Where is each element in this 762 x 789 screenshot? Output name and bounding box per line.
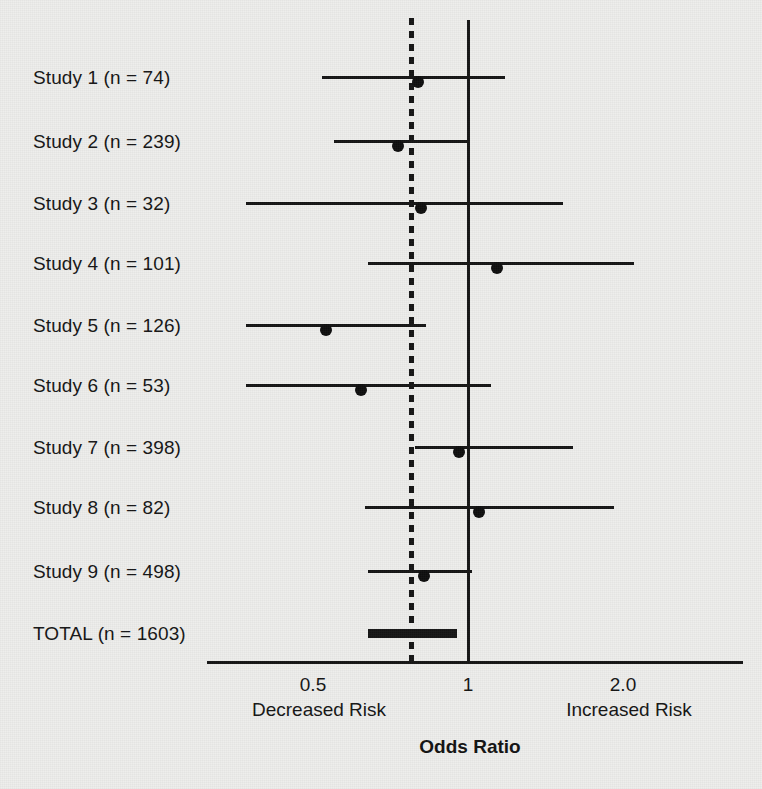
study-row-label: Study 3 (n = 32) bbox=[33, 194, 170, 213]
study-row-label: Study 5 (n = 126) bbox=[33, 316, 181, 335]
study-row-label: Study 1 (n = 74) bbox=[33, 68, 170, 87]
study-row-label: Study 2 (n = 239) bbox=[33, 132, 181, 151]
x-axis-tick-label: 1 bbox=[463, 675, 474, 694]
odds-ratio-point-marker bbox=[453, 446, 465, 458]
odds-ratio-point-marker bbox=[392, 140, 404, 152]
odds-ratio-point-marker bbox=[418, 570, 430, 582]
x-axis-line bbox=[207, 661, 743, 664]
summary-confidence-interval-bar bbox=[368, 629, 456, 638]
confidence-interval-line bbox=[246, 324, 427, 327]
decreased-risk-label: Decreased Risk bbox=[252, 700, 386, 719]
null-effect-reference-line bbox=[467, 20, 470, 661]
study-row-label: Study 8 (n = 82) bbox=[33, 498, 170, 517]
confidence-interval-line bbox=[365, 506, 614, 509]
x-axis-tick-label: 2.0 bbox=[610, 675, 636, 694]
confidence-interval-line bbox=[415, 446, 573, 449]
odds-ratio-point-marker bbox=[355, 384, 367, 396]
odds-ratio-point-marker bbox=[415, 202, 427, 214]
confidence-interval-line bbox=[246, 384, 492, 387]
study-row-label: Study 6 (n = 53) bbox=[33, 376, 170, 395]
odds-ratio-point-marker bbox=[473, 506, 485, 518]
odds-ratio-point-marker bbox=[320, 324, 332, 336]
odds-ratio-point-marker bbox=[491, 262, 503, 274]
increased-risk-label: Increased Risk bbox=[566, 700, 692, 719]
plot-area: Study 1 (n = 74)Study 2 (n = 239)Study 3… bbox=[0, 0, 762, 789]
study-row-label: Study 9 (n = 498) bbox=[33, 562, 181, 581]
study-row-label: Study 4 (n = 101) bbox=[33, 254, 181, 273]
study-row-label: Study 7 (n = 398) bbox=[33, 438, 181, 457]
x-axis-title: Odds Ratio bbox=[419, 737, 520, 756]
odds-ratio-point-marker bbox=[412, 76, 424, 88]
confidence-interval-line bbox=[246, 202, 563, 205]
pooled-effect-reference-line bbox=[409, 18, 414, 661]
total-row-label: TOTAL (n = 1603) bbox=[33, 624, 186, 643]
x-axis-tick-label: 0.5 bbox=[300, 675, 326, 694]
forest-plot-figure: Study 1 (n = 74)Study 2 (n = 239)Study 3… bbox=[0, 0, 762, 789]
